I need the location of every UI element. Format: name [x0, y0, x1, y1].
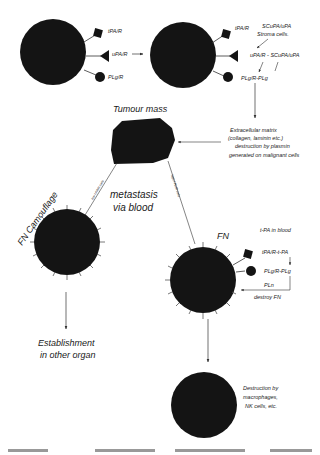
- tpa-blood-label: t-PA in blood: [260, 227, 292, 233]
- tumour-mass: [111, 118, 175, 164]
- destroy-fn-label: destroy FN: [254, 294, 281, 300]
- fn-camouflaged-cell: [30, 205, 105, 280]
- cell1-tpar-label: tPA/R: [108, 28, 122, 34]
- tpa-receptor-icon: [243, 249, 253, 259]
- plg-receptor-icon: [223, 72, 233, 82]
- metastasis-label-2: via blood: [113, 202, 153, 213]
- stroma-label-1: SCuPA/uPA: [262, 23, 291, 29]
- destroyed-cell: [171, 372, 237, 438]
- fn-coated-cell: [165, 242, 236, 319]
- cell1-plgr-label: PLg/R: [108, 74, 123, 80]
- high-path-label: high t-PA/R cells: [170, 174, 181, 198]
- cell2-plgr-label: PLg/R-PLg: [241, 75, 269, 81]
- cell-1: [20, 19, 109, 85]
- tpa-complex-label: tPA/R-t-PA: [262, 249, 288, 255]
- diagram-canvas: tPA/R uPA/R PLg/R tPA/R uPA/R - SCuPA/uP…: [0, 0, 320, 455]
- cell-2: [150, 22, 238, 88]
- ecm-label-4: generated on malignant cells: [229, 152, 300, 158]
- high-tpa-path: [168, 161, 195, 244]
- stroma-label-2: Stroma cells.: [257, 31, 289, 37]
- destruction-label-2: macrophages,: [243, 394, 278, 400]
- tpa-receptor-icon: [93, 28, 103, 38]
- plg-receptor-icon: [246, 266, 256, 276]
- caption-fragment: [8, 449, 312, 452]
- low-path-label: low t-PA/R cells: [90, 179, 105, 200]
- ecm-label-1: Extracellular matrix: [230, 127, 277, 133]
- cell2-upar-label: uPA/R - SCuPA/uPA: [250, 52, 300, 58]
- tpa-receptor-icon: [221, 29, 231, 39]
- upa-receptor-icon: [100, 50, 109, 62]
- upa-receptor-icon: [229, 50, 238, 62]
- cell2-tpar-label: tPA/R: [235, 25, 249, 31]
- establishment-label-1: Establishment: [38, 338, 95, 348]
- metastasis-label-1: metastasis: [110, 189, 158, 200]
- plg-receptor-icon: [95, 72, 105, 82]
- destruction-label-1: Destruction by: [243, 385, 279, 391]
- establishment-label-2: in other organ: [40, 350, 96, 360]
- destruction-label-3: NK cells, etc.: [245, 403, 277, 409]
- cell1-upar-label: uPA/R: [112, 51, 128, 57]
- ecm-label-2: (collagen, laminin etc.): [228, 135, 283, 141]
- pln-label: PLn: [264, 282, 274, 288]
- plg-complex-label: PLg/R-PLg: [264, 268, 292, 274]
- tumour-mass-label: Tumour mass: [113, 104, 168, 114]
- fn-label: FN: [217, 231, 229, 241]
- ecm-label-3: destruction by plasmin: [235, 143, 290, 149]
